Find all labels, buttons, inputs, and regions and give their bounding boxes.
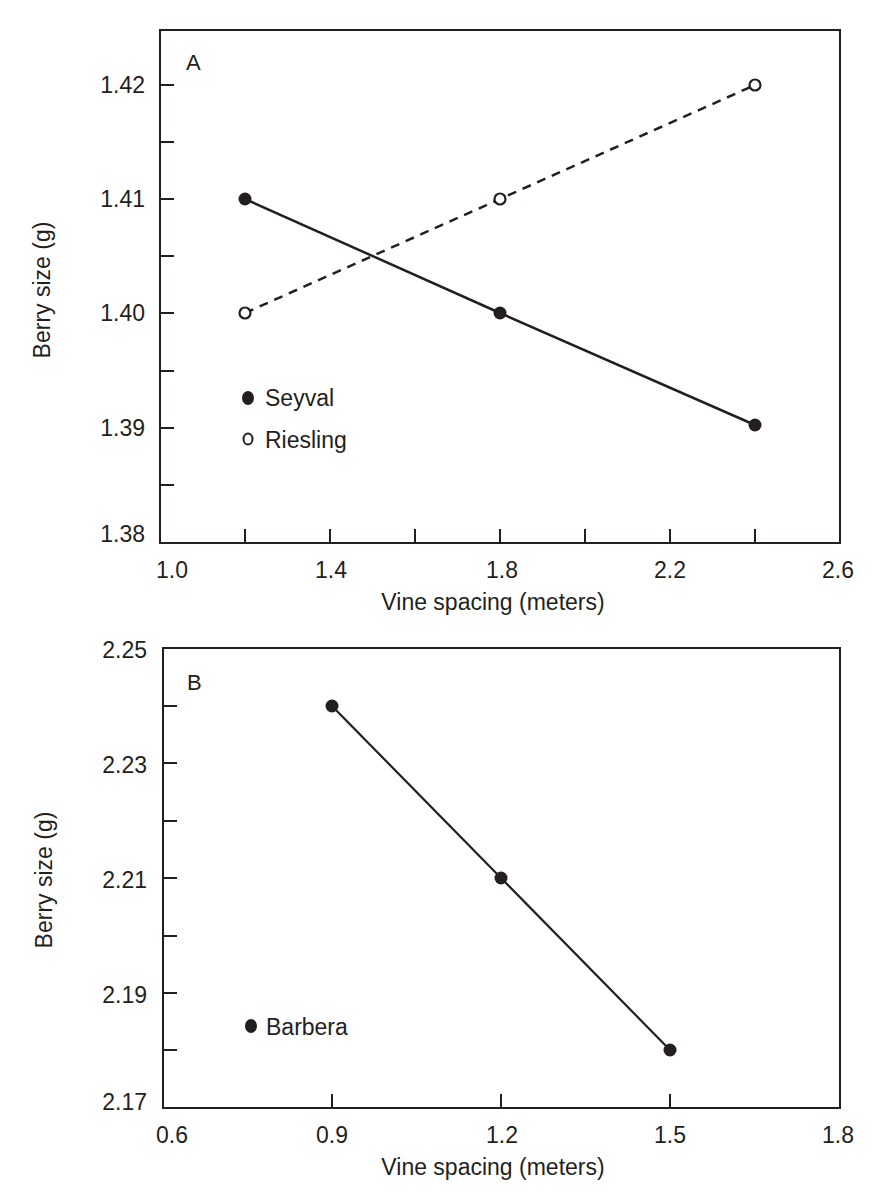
y-tick-label: 1.38 — [100, 521, 145, 547]
data-point — [750, 80, 761, 91]
series-barbera — [326, 700, 677, 1057]
filled-circle-marker-icon — [242, 391, 254, 405]
y-axis-title-b: Berry size (g) — [31, 812, 57, 949]
data-point — [495, 194, 506, 205]
y-axis-title-a: Berry size (g) — [29, 222, 55, 359]
x-tick-label: 1.0 — [156, 557, 188, 583]
y-axis-ticks-b — [163, 706, 177, 1050]
legend-label-barbera: Barbera — [266, 1014, 348, 1040]
x-tick-label: 0.6 — [156, 1122, 188, 1148]
chart-panel-b: B 2.25 2.23 2.21 2.19 2.17 0.6 0.9 — [31, 637, 854, 1180]
data-point — [749, 419, 762, 432]
y-tick-label: 2.17 — [102, 1089, 147, 1115]
y-axis-labels-a: 1.42 1.41 1.40 1.39 1.38 — [100, 72, 145, 547]
x-tick-label: 1.5 — [654, 1122, 686, 1148]
x-axis-title-a: Vine spacing (meters) — [381, 589, 604, 615]
x-axis-ticks-a — [245, 529, 755, 543]
data-point — [240, 308, 251, 319]
y-tick-label: 1.39 — [100, 415, 145, 441]
y-tick-label: 1.40 — [100, 300, 145, 326]
open-circle-marker-icon — [244, 434, 253, 445]
data-point — [326, 700, 339, 713]
y-tick-label: 2.25 — [102, 637, 147, 663]
x-tick-label: 1.8 — [822, 1122, 854, 1148]
data-point — [664, 1044, 677, 1057]
panel-label-a: A — [186, 50, 201, 75]
data-point — [495, 872, 508, 885]
y-tick-label: 2.19 — [102, 982, 147, 1008]
x-axis-ticks-b — [332, 1094, 670, 1108]
filled-circle-marker-icon — [245, 1019, 257, 1033]
x-tick-label: 2.6 — [822, 557, 854, 583]
data-point — [494, 307, 507, 320]
x-axis-title-b: Vine spacing (meters) — [381, 1154, 604, 1180]
series-riesling — [240, 80, 761, 319]
x-tick-label: 1.8 — [486, 557, 518, 583]
data-point — [239, 193, 252, 206]
plot-frame-a — [160, 30, 840, 543]
x-axis-labels-a: 1.0 1.4 1.8 2.2 2.6 — [156, 557, 854, 583]
x-axis-labels-b: 0.6 0.9 1.2 1.5 1.8 — [156, 1122, 854, 1148]
panel-label-b: B — [187, 670, 202, 695]
legend-label-seyval: Seyval — [265, 385, 334, 411]
x-tick-label: 2.2 — [654, 557, 686, 583]
x-tick-label: 1.2 — [486, 1122, 518, 1148]
y-axis-labels-b: 2.25 2.23 2.21 2.19 2.17 — [102, 637, 147, 1115]
x-tick-label: 1.4 — [315, 557, 347, 583]
legend-label-riesling: Riesling — [265, 427, 347, 453]
legend-a: Seyval Riesling — [242, 385, 347, 453]
y-tick-label: 1.42 — [100, 72, 145, 98]
x-tick-label: 0.9 — [316, 1122, 348, 1148]
y-tick-label: 2.21 — [102, 867, 147, 893]
y-tick-label: 1.41 — [100, 186, 145, 212]
legend-b: Barbera — [245, 1014, 348, 1040]
figure: A 1.42 1.41 1.40 1.39 1.38 — [0, 0, 881, 1201]
chart-panel-a: A 1.42 1.41 1.40 1.39 1.38 — [29, 30, 854, 615]
y-axis-ticks-a — [160, 85, 174, 485]
y-tick-label: 2.23 — [102, 752, 147, 778]
